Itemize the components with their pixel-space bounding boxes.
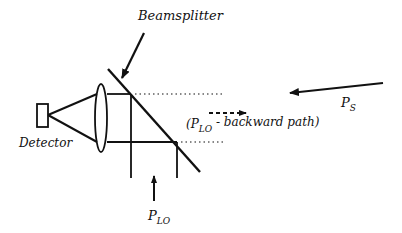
- focus-cone-upper: [48, 94, 97, 115]
- beamsplitter-label: Beamsplitter: [137, 8, 224, 23]
- signal-beam-arrow: [290, 83, 383, 93]
- backward-path-label: (PLO - backward path): [186, 115, 320, 134]
- lens: [95, 84, 107, 152]
- lo-beam-label: PLO: [147, 208, 171, 226]
- signal-beam-label: PS: [340, 95, 356, 113]
- beamsplitter-pointer-arrow: [122, 33, 144, 78]
- detector-rect: [37, 104, 48, 127]
- heterodyne-diagram: Beamsplitter Detector (PLO - backward pa…: [0, 0, 402, 233]
- detector-label: Detector: [18, 136, 73, 150]
